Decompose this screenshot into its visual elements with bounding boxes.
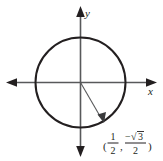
label-y-radical-icon: √ (131, 131, 137, 142)
y-axis-label: y (84, 7, 90, 19)
y-axis-down-arrowhead (76, 146, 85, 157)
label-open-paren: ( (103, 140, 107, 153)
label-y-denominator: 2 (133, 145, 138, 156)
x-axis-left-arrowhead (6, 78, 17, 87)
label-comma: , (120, 140, 123, 152)
y-axis-up-arrowhead (76, 6, 85, 17)
x-axis-label: x (147, 85, 153, 97)
unit-circle-figure: y x ( 1 2 , − √ 3 2 ) (0, 0, 163, 161)
label-x-numerator: 1 (111, 131, 116, 142)
label-close-paren: ) (148, 140, 152, 153)
label-x-denominator: 2 (111, 145, 116, 156)
terminal-ray (81, 83, 107, 124)
y-axis (76, 6, 85, 157)
label-y-radicand: 3 (138, 131, 143, 142)
point-coordinate-label: ( 1 2 , − √ 3 2 ) (103, 131, 152, 156)
x-axis (6, 78, 157, 87)
